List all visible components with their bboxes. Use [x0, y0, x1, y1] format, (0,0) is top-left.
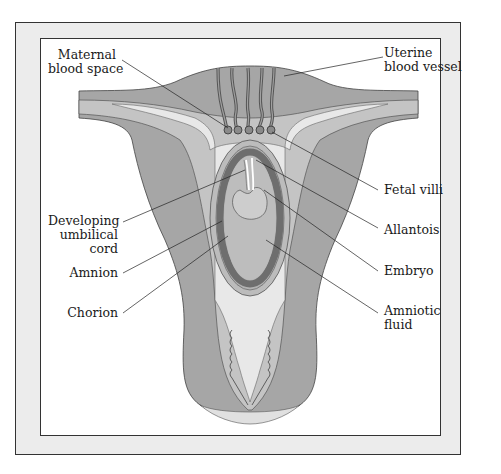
- label-uterine-blood-vessel: Uterine blood vessel: [384, 46, 462, 74]
- label-line: Chorion: [48, 306, 118, 320]
- label-fetal-villi: Fetal villi: [384, 183, 443, 197]
- label-chorion: Chorion: [48, 306, 118, 320]
- label-line: Fetal villi: [384, 183, 443, 197]
- label-line: umbilical: [48, 228, 118, 242]
- label-allantois: Allantois: [384, 223, 440, 237]
- label-embryo: Embryo: [384, 264, 434, 278]
- label-amniotic-fluid: Amniotic fluid: [384, 304, 440, 332]
- label-maternal-blood-space: Maternal blood space: [48, 48, 116, 76]
- label-line: cord: [48, 242, 118, 256]
- label-line: fluid: [384, 318, 440, 332]
- label-line: Embryo: [384, 264, 434, 278]
- label-line: blood space: [48, 62, 116, 76]
- label-line: Allantois: [384, 223, 440, 237]
- label-amnion: Amnion: [48, 266, 118, 280]
- label-line: Amniotic: [384, 304, 440, 318]
- label-line: blood vessel: [384, 60, 462, 74]
- label-line: Maternal: [48, 48, 116, 62]
- label-line: Developing: [48, 214, 118, 228]
- label-line: Amnion: [48, 266, 118, 280]
- label-developing-umbilical-cord: Developing umbilical cord: [48, 214, 118, 256]
- label-line: Uterine: [384, 46, 462, 60]
